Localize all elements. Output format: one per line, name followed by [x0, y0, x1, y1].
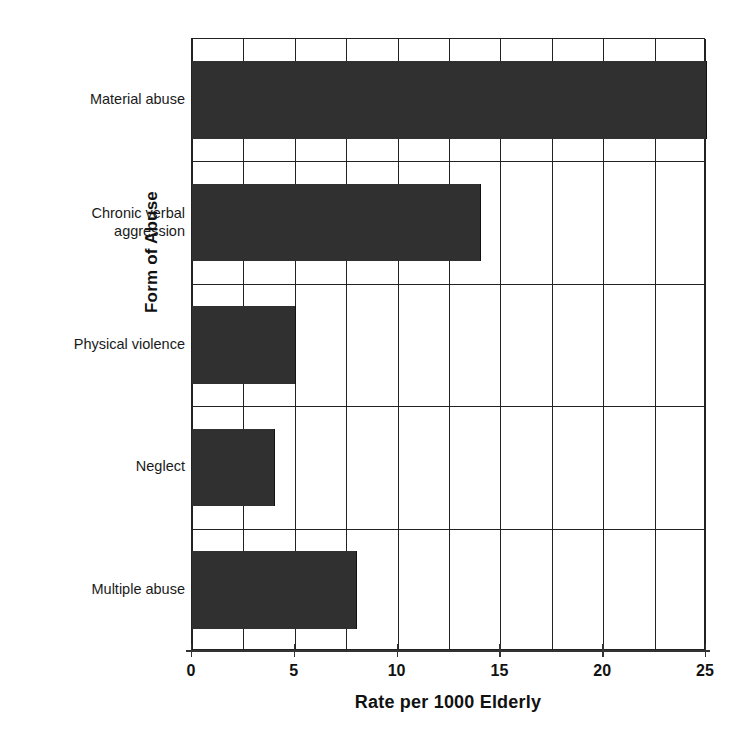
y-axis-tick-label: Multiple abuse	[0, 580, 185, 598]
y-axis-tick-label-line: Material abuse	[0, 90, 185, 108]
y-axis-tick-label-line: Multiple abuse	[0, 580, 185, 598]
x-axis-tick	[397, 644, 398, 657]
x-axis-tick	[191, 644, 192, 657]
y-axis-tick-label: Neglect	[0, 457, 185, 475]
plot-inner	[192, 39, 704, 649]
horizontal-gridline	[192, 161, 704, 162]
bar	[192, 184, 481, 262]
x-axis-tick-label: 10	[367, 662, 427, 680]
y-axis-tick-label-line: Chronic verbal	[0, 204, 185, 222]
y-axis-tick-label-line: Neglect	[0, 457, 185, 475]
x-axis-tick	[705, 644, 706, 657]
horizontal-gridline	[192, 529, 704, 530]
bar-chart-figure: Form of Abuse Rate per 1000 Elderly Mate…	[0, 0, 747, 754]
y-axis-tick-label: Material abuse	[0, 90, 185, 108]
y-axis-title: Form of Abuse	[140, 142, 164, 362]
x-axis-title: Rate per 1000 Elderly	[191, 692, 705, 713]
x-axis-tick-label: 20	[572, 662, 632, 680]
y-axis-tick-label-line: Physical violence	[0, 335, 185, 353]
bar	[192, 551, 357, 629]
horizontal-gridline	[192, 406, 704, 407]
y-axis-tick-label: Physical violence	[0, 335, 185, 353]
x-axis-tick-label: 15	[469, 662, 529, 680]
x-axis-line	[186, 650, 710, 652]
x-axis-tick-label: 0	[161, 662, 221, 680]
y-axis-tick-label: Chronic verbalaggression	[0, 204, 185, 240]
horizontal-gridline	[192, 284, 704, 285]
bar	[192, 429, 275, 507]
plot-area	[191, 38, 705, 650]
y-axis-tick-label-line: aggression	[0, 222, 185, 240]
x-axis-tick-label: 25	[675, 662, 735, 680]
x-axis-tick	[294, 644, 295, 657]
x-axis-tick	[602, 644, 603, 657]
bar	[192, 61, 707, 139]
x-axis-tick	[499, 644, 500, 657]
x-axis-tick-label: 5	[264, 662, 324, 680]
bar	[192, 306, 296, 384]
